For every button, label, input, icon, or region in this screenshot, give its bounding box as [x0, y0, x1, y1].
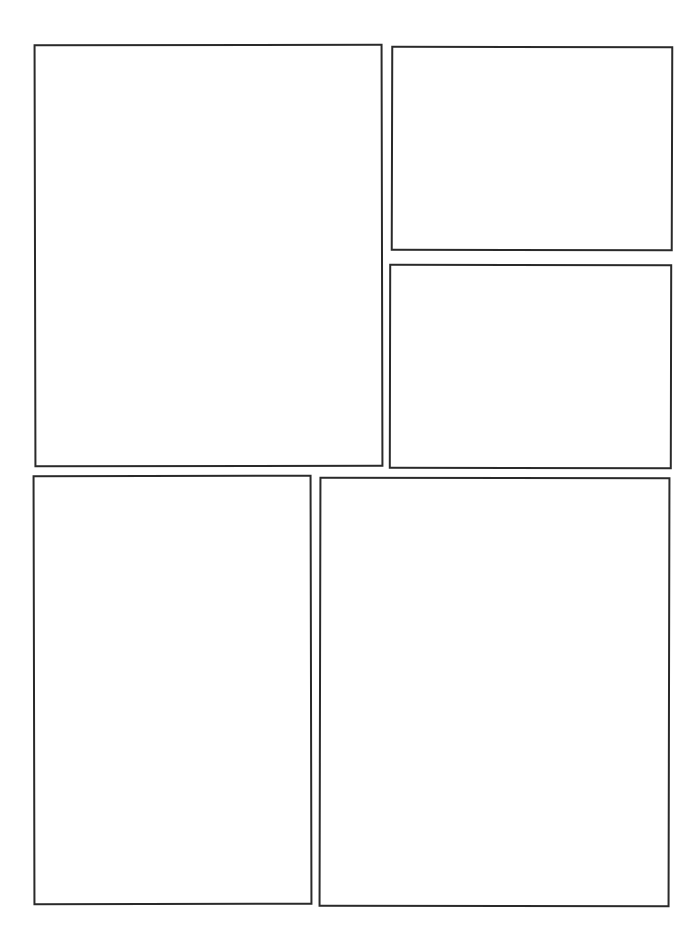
comic-page	[0, 0, 699, 941]
panel-top-right-upper	[391, 46, 674, 252]
panel-bottom-right	[319, 477, 671, 908]
panel-top-right-lower	[389, 264, 672, 470]
panel-bottom-left	[33, 475, 313, 906]
panel-top-left	[34, 44, 384, 468]
